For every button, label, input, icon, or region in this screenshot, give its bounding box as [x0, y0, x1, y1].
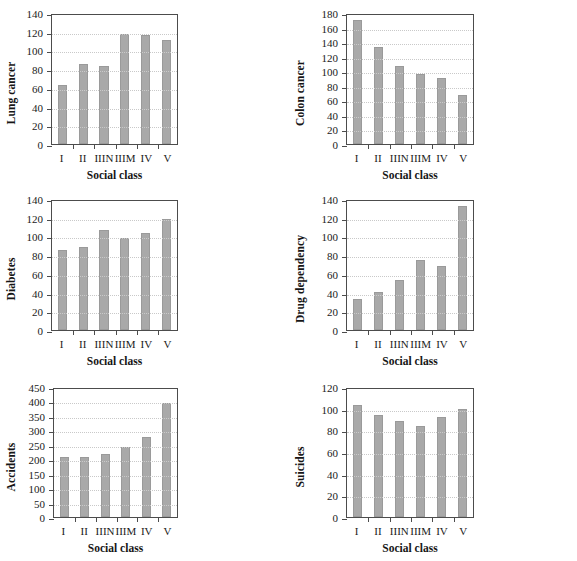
bar-cell	[389, 15, 410, 144]
x-tick-mark	[432, 144, 433, 149]
bar-series-colon-cancer	[347, 15, 473, 144]
x-tick-mark	[73, 330, 74, 335]
gridline	[347, 238, 473, 239]
y-tick-label: 0	[40, 512, 46, 524]
x-tick-label: IV	[136, 525, 157, 537]
gridline	[54, 418, 177, 419]
y-tick-label: 20	[327, 306, 338, 318]
x-tick-label: IV	[431, 525, 452, 537]
gridline	[52, 71, 177, 72]
y-tick-mark	[47, 313, 52, 314]
y-tick-label: 0	[38, 325, 44, 337]
y-tick-mark	[342, 201, 347, 202]
y-tick-mark	[342, 313, 347, 314]
x-tick-mark	[158, 144, 159, 149]
x-tick-mark	[390, 517, 391, 522]
x-tick-label: IV	[136, 152, 157, 164]
x-tick-mark	[137, 517, 138, 522]
y-tick-label: 150	[29, 469, 46, 481]
y-tick-label: 80	[32, 250, 43, 262]
y-tick-mark	[342, 131, 347, 132]
x-tick-mark	[116, 144, 117, 149]
bar	[99, 66, 108, 144]
x-axis-title-accidents: Social class	[53, 542, 178, 554]
x-tick-label: V	[453, 338, 474, 350]
x-tick-label: II	[367, 525, 388, 537]
gridline	[347, 497, 473, 498]
bar	[353, 299, 362, 330]
y-tick-mark	[342, 15, 347, 16]
x-tick-mark	[454, 144, 455, 149]
y-tick-label: 40	[327, 288, 338, 300]
y-tick-mark	[342, 276, 347, 277]
x-tick-mark	[137, 144, 138, 149]
bar-cell	[95, 389, 116, 517]
bar-cell	[347, 15, 368, 144]
gridline	[347, 88, 473, 89]
y-tick-mark	[342, 30, 347, 31]
x-tick-label: V	[453, 525, 474, 537]
y-tick-label: 160	[322, 23, 339, 35]
y-tick-label: 120	[322, 52, 339, 64]
y-tick-label: 120	[27, 213, 44, 225]
y-tick-label: 0	[333, 139, 339, 151]
x-tick-label: I	[51, 338, 72, 350]
gridline	[347, 59, 473, 60]
y-tick-labels-lung-cancer: 020406080100120140	[13, 14, 43, 145]
y-tick-labels-drug-dependency: 020406080100120140	[308, 200, 338, 331]
bar	[58, 85, 67, 144]
y-tick-label: 20	[32, 120, 43, 132]
x-tick-labels-drug-dependency: IIIIIINIIIMIVV	[346, 338, 474, 350]
x-tick-labels-accidents: IIIIIINIIIMIVV	[53, 525, 178, 537]
bar	[458, 409, 467, 517]
y-tick-mark	[342, 146, 347, 147]
x-tick-label: IIIN	[389, 525, 410, 537]
bar-series-accidents	[54, 389, 177, 517]
gridline	[347, 476, 473, 477]
y-tick-label: 100	[322, 231, 339, 243]
y-tick-label: 250	[29, 440, 46, 452]
y-tick-mark	[47, 71, 52, 72]
y-tick-label: 180	[322, 8, 339, 20]
y-tick-mark	[342, 476, 347, 477]
y-tick-mark	[342, 59, 347, 60]
gridline	[54, 490, 177, 491]
panel-suicides: Suicides 020406080100120 IIIIIINIIIMIVV …	[289, 372, 577, 561]
gridline	[52, 238, 177, 239]
gridline	[52, 127, 177, 128]
y-tick-mark	[49, 505, 54, 506]
x-tick-label: II	[367, 338, 388, 350]
y-tick-label: 80	[327, 81, 338, 93]
y-tick-label: 100	[322, 66, 339, 78]
y-tick-mark	[342, 117, 347, 118]
gridline	[347, 220, 473, 221]
y-tick-label: 100	[27, 231, 44, 243]
bar	[458, 206, 467, 330]
gridline	[347, 257, 473, 258]
y-tick-mark	[47, 146, 52, 147]
x-tick-mark	[94, 144, 95, 149]
y-tick-label: 80	[327, 425, 338, 437]
x-tick-mark	[454, 517, 455, 522]
x-tick-label: IIIN	[389, 338, 410, 350]
y-tick-label: 100	[322, 404, 339, 416]
x-tick-label: II	[367, 152, 388, 164]
y-tick-mark	[47, 15, 52, 16]
y-tick-mark	[49, 461, 54, 462]
bar-cell	[431, 15, 452, 144]
gridline	[52, 52, 177, 53]
y-tick-label: 400	[29, 396, 46, 408]
x-tick-mark	[158, 517, 159, 522]
y-tick-label: 120	[322, 382, 339, 394]
x-tick-label: I	[346, 338, 367, 350]
bar	[80, 457, 89, 517]
x-tick-mark	[454, 330, 455, 335]
y-tick-label: 60	[327, 95, 338, 107]
y-tick-label: 40	[327, 110, 338, 122]
y-tick-mark	[49, 389, 54, 390]
y-tick-mark	[342, 102, 347, 103]
x-tick-label: IIIN	[389, 152, 410, 164]
panel-colon-cancer: Colon cancer 020406080100120140160180 II…	[289, 0, 577, 186]
x-tick-mark	[368, 517, 369, 522]
y-tick-mark	[342, 332, 347, 333]
